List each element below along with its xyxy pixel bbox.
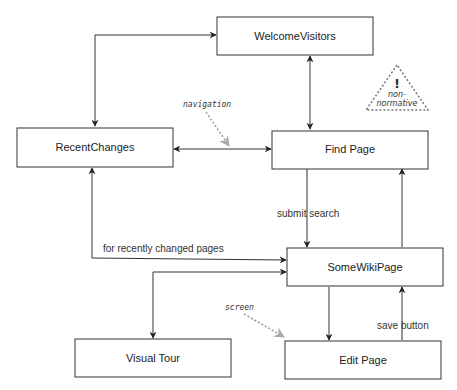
annotation-navigation-arrow xyxy=(206,112,229,146)
non-normative-warning-icon: ! non- normative xyxy=(366,65,428,110)
edge-label-submit-search: submit search xyxy=(277,208,339,219)
warning-mark: ! xyxy=(394,77,399,91)
node-label: Find Page xyxy=(325,143,375,155)
edge-label-recently-changed: for recently changed pages xyxy=(103,243,224,254)
edge-somewiki-tour xyxy=(153,272,286,338)
annotation-screen: screen xyxy=(225,303,254,312)
diagram-canvas: submit search for recently changed pages… xyxy=(0,0,457,390)
node-some-wiki-page: SomeWikiPage xyxy=(287,248,443,286)
node-label: WelcomeVisitors xyxy=(254,30,336,42)
node-label: SomeWikiPage xyxy=(327,261,402,273)
node-recent-changes: RecentChanges xyxy=(17,128,173,167)
node-visual-tour: Visual Tour xyxy=(75,339,231,377)
node-welcome-visitors: WelcomeVisitors xyxy=(217,17,373,55)
node-label: RecentChanges xyxy=(56,141,135,153)
annotation-screen-arrow xyxy=(244,314,284,337)
node-edit-page: Edit Page xyxy=(285,341,441,379)
warning-line-1: non- xyxy=(388,90,406,99)
warning-line-2: normative xyxy=(377,99,418,108)
node-label: Edit Page xyxy=(339,354,387,366)
node-label: Visual Tour xyxy=(126,352,180,364)
edge-label-save-button: save button xyxy=(377,320,429,331)
edge-recent-welcome xyxy=(95,35,216,126)
node-find-page: Find Page xyxy=(272,131,428,169)
annotation-navigation: navigation xyxy=(183,100,231,109)
